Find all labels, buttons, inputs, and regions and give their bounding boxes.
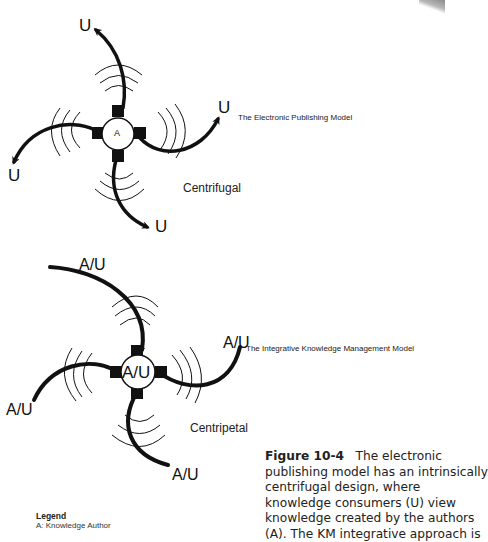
integrative-km-title: The Integrative Knowledge Management Mod…: [246, 344, 414, 353]
caption-line-1: Figure 10-4 The electronic: [265, 449, 488, 465]
bottom-arm-label-down: A/U: [172, 467, 199, 483]
electronic-publishing-title: The Electronic Publishing Model: [238, 113, 352, 122]
top-arm-label-left: U: [8, 167, 20, 184]
caption-line-6: (A). The KM integrative approach is: [265, 527, 488, 542]
figure-caption: Figure 10-4 The electronic publishing mo…: [265, 449, 488, 542]
top-arm-label-right: U: [218, 99, 230, 116]
centrifugal-label: Centrifugal: [183, 181, 241, 195]
bottom-arm-label-up: A/U: [79, 257, 106, 273]
top-arm-label-up: U: [79, 17, 91, 34]
figure-number: Figure 10-4: [265, 449, 344, 463]
caption-line-4: knowledge consumers (U) view: [265, 496, 488, 512]
centripetal-label: Centripetal: [190, 421, 248, 435]
top-center-label: A: [114, 128, 120, 138]
bottom-arm-label-left: A/U: [6, 402, 33, 418]
bottom-center-label: A/U: [122, 363, 150, 383]
top-arm-label-down: U: [155, 218, 167, 235]
legend-item-author: A: Knowledge Author: [36, 521, 111, 530]
caption-line-5: knowledge created by the authors: [265, 511, 488, 527]
legend-title: Legend: [36, 511, 66, 521]
caption-line-3: centrifugal design, where: [265, 480, 488, 496]
caption-line-2: publishing model has an intrinsically: [265, 465, 488, 481]
